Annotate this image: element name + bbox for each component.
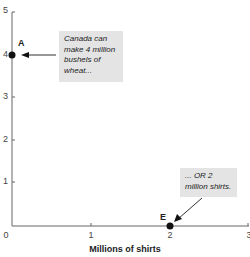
point-a	[9, 52, 16, 59]
callout-e: ... OR 2 million shirts.	[180, 168, 237, 197]
arrow-a-head	[21, 52, 29, 58]
y-tick-label-2: 2	[0, 134, 8, 144]
point-e-label: E	[160, 212, 166, 222]
callout-a: Canada can make 4 million bushels of whe…	[59, 31, 123, 82]
arrow-e-head	[174, 214, 182, 222]
y-tick-label-3: 3	[0, 91, 8, 101]
chart-canvas	[0, 0, 250, 257]
origin-label: 0	[0, 230, 12, 240]
point-e	[167, 223, 174, 230]
x-tick-label-3: 3	[243, 230, 250, 240]
y-tick-label-5: 5	[0, 5, 8, 15]
y-tick-label-4: 4	[0, 49, 8, 59]
arrow-e	[178, 198, 202, 219]
x-tick-label-1: 1	[85, 230, 97, 240]
y-tick-label-1: 1	[0, 176, 8, 186]
x-tick-label-2: 2	[164, 230, 176, 240]
x-axis-title: Millions of shirts	[0, 244, 250, 254]
point-a-label: A	[18, 38, 25, 48]
